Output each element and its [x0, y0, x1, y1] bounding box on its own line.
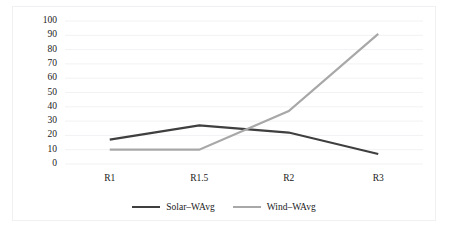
y-tick-label: 80 [13, 45, 57, 55]
y-tick-label: 90 [13, 30, 57, 40]
y-tick-label: 60 [13, 73, 57, 83]
legend-item-0[interactable]: Solar–WAvg [132, 202, 214, 212]
x-tick-label: R2 [283, 174, 294, 184]
y-tick-label: 40 [13, 102, 57, 112]
line-chart-canvas [13, 7, 437, 222]
y-tick-label: 70 [13, 59, 57, 69]
y-tick-label: 30 [13, 116, 57, 126]
legend-label: Solar–WAvg [166, 202, 214, 212]
x-tick-label: R1.5 [190, 174, 208, 184]
x-tick-label: R1 [104, 174, 115, 184]
legend-color-swatch [233, 206, 261, 208]
y-tick-label: 50 [13, 88, 57, 98]
legend-item-1[interactable]: Wind–WAvg [233, 202, 316, 212]
chart-plot-area: 1009080706050403020100 R1R1.5R2R3 Solar–… [13, 7, 435, 220]
chart-card: 1009080706050403020100 R1R1.5R2R3 Solar–… [12, 6, 436, 221]
legend-label: Wind–WAvg [267, 202, 316, 212]
y-tick-label: 10 [13, 145, 57, 155]
chart-legend: Solar–WAvgWind–WAvg [13, 202, 435, 212]
series-group [110, 34, 379, 154]
y-tick-label: 20 [13, 130, 57, 140]
x-tick-label: R3 [373, 174, 384, 184]
legend-color-swatch [132, 206, 160, 208]
y-tick-label: 0 [13, 159, 57, 169]
y-tick-label: 100 [13, 16, 57, 26]
